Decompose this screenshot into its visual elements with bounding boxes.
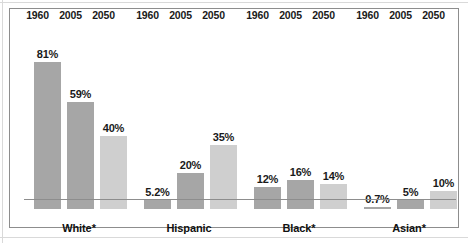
x-axis-year-label: 2005 xyxy=(277,9,304,21)
bar[interactable] xyxy=(397,200,424,209)
plot-area: 81%59%40%5.2%20%35%12%16%14%0.7%5%10% xyxy=(20,18,468,200)
bar[interactable] xyxy=(177,173,204,209)
x-axis-year-label: 2050 xyxy=(200,9,227,21)
bar[interactable] xyxy=(144,200,171,209)
bar-slot: 35% xyxy=(210,27,237,209)
bar-value-label: 12% xyxy=(257,173,278,185)
bar-value-label: 10% xyxy=(433,177,454,189)
x-axis-year-label: 1960 xyxy=(244,9,271,21)
x-axis-year-label: 2050 xyxy=(90,9,117,21)
chart-figure: 81%59%40%5.2%20%35%12%16%14%0.7%5%10% 19… xyxy=(0,0,468,243)
bar-slot: 20% xyxy=(177,27,204,209)
bar-group: 81%59%40% xyxy=(34,27,127,209)
bar-group: 0.7%5%10% xyxy=(364,27,457,209)
bar-value-label: 20% xyxy=(180,159,201,171)
bar-slot: 16% xyxy=(287,27,314,209)
bar-slot: 5% xyxy=(397,27,424,209)
bar-slot: 59% xyxy=(67,27,94,209)
bar[interactable] xyxy=(364,207,391,209)
bar-value-label: 14% xyxy=(323,170,344,182)
bar-slot: 40% xyxy=(100,27,127,209)
bar-slot: 81% xyxy=(34,27,61,209)
bar-slot: 14% xyxy=(320,27,347,209)
bar-value-label: 5.2% xyxy=(145,186,169,198)
bar[interactable] xyxy=(287,180,314,209)
outer-rule-bottom xyxy=(0,237,468,238)
outer-rule-top xyxy=(0,2,468,3)
bar-slot: 5.2% xyxy=(144,27,171,209)
x-axis-line xyxy=(24,199,456,200)
bar-value-label: 16% xyxy=(290,166,311,178)
chart-frame: 81%59%40%5.2%20%35%12%16%14%0.7%5%10% 19… xyxy=(9,8,459,228)
bar-group: 5.2%20%35% xyxy=(144,27,237,209)
x-axis-year-label: 2050 xyxy=(310,9,337,21)
x-axis-year-label: 1960 xyxy=(134,9,161,21)
bar[interactable] xyxy=(67,102,94,209)
bar-slot: 12% xyxy=(254,27,281,209)
x-axis-year-label: 2005 xyxy=(387,9,414,21)
x-axis-year-label: 2005 xyxy=(167,9,194,21)
x-axis-year-label: 1960 xyxy=(354,9,381,21)
bar-group: 12%16%14% xyxy=(254,27,347,209)
bar-slot: 10% xyxy=(430,27,457,209)
bar-value-label: 5% xyxy=(403,186,419,198)
outer-rule-left xyxy=(2,0,3,243)
bar-slot: 0.7% xyxy=(364,27,391,209)
x-axis-year-label: 2050 xyxy=(420,9,447,21)
x-axis-group-label: Asian* xyxy=(344,222,468,234)
bar-value-label: 81% xyxy=(37,48,58,60)
bar[interactable] xyxy=(320,184,347,209)
bar-value-label: 35% xyxy=(213,131,234,143)
x-axis-year-label: 2005 xyxy=(57,9,84,21)
x-axis-year-label: 1960 xyxy=(24,9,51,21)
bar-value-label: 59% xyxy=(70,88,91,100)
bar-value-label: 40% xyxy=(103,122,124,134)
bar[interactable] xyxy=(34,62,61,209)
